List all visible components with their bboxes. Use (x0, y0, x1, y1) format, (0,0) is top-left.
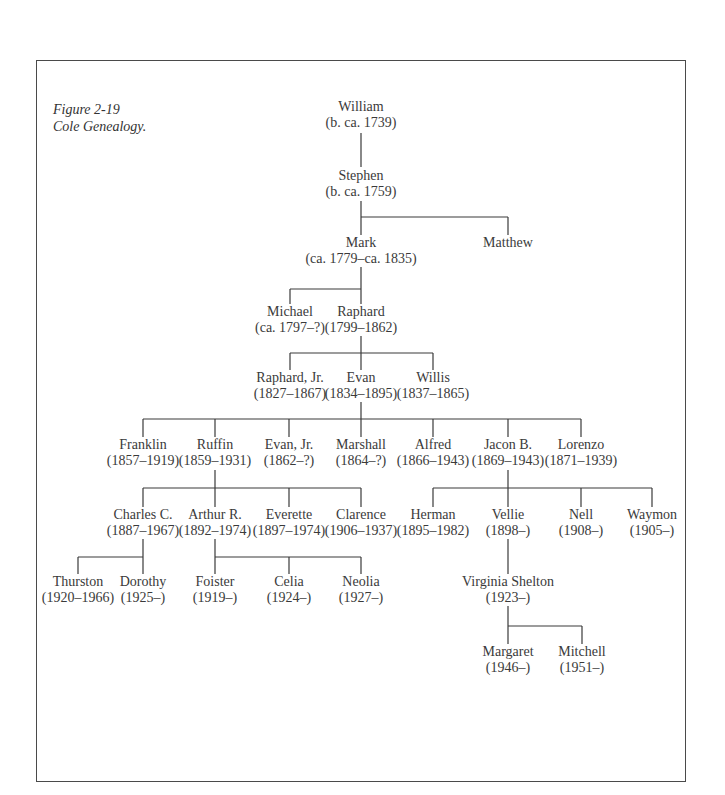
person-dates: (b. ca. 1759) (326, 184, 397, 200)
person-name: Raphard (325, 304, 397, 320)
person-mark: Mark (ca. 1779–ca. 1835) (305, 235, 416, 267)
person-name: Evan (325, 370, 397, 386)
person-margaret: Margaret (1946–) (482, 644, 533, 676)
person-waymon: Waymon (1905–) (627, 507, 677, 539)
person-dates: (1887–1967) (107, 523, 179, 539)
person-name: Stephen (326, 168, 397, 184)
person-raphard: Raphard (1799–1862) (325, 304, 397, 336)
person-dates: (1905–) (627, 523, 677, 539)
person-clarence: Clarence (1906–1937) (325, 507, 397, 539)
person-dates: (ca. 1797–?) (255, 320, 325, 336)
person-marshall: Marshall (1864–?) (336, 437, 387, 469)
person-dates: (1866–1943) (397, 453, 469, 469)
person-willis: Willis (1837–1865) (397, 370, 469, 402)
person-dates: (1946–) (482, 660, 533, 676)
person-franklin: Franklin (1857–1919) (107, 437, 179, 469)
person-name: Arthur R. (179, 507, 251, 523)
person-dates: (1923–) (462, 590, 554, 606)
person-name: Virginia Shelton (462, 574, 554, 590)
person-dates: (1927–) (339, 590, 383, 606)
person-name: Raphard, Jr. (254, 370, 326, 386)
person-name: Matthew (483, 235, 533, 251)
person-ruffin: Ruffin (1859–1931) (179, 437, 251, 469)
person-dates: (1859–1931) (179, 453, 251, 469)
person-name: Vellie (486, 507, 530, 523)
person-dorothy: Dorothy (1925–) (120, 574, 167, 606)
person-dates: (1924–) (267, 590, 311, 606)
person-name: Mark (305, 235, 416, 251)
person-dates: (1869–1943) (472, 453, 544, 469)
person-herman: Herman (1895–1982) (397, 507, 469, 539)
person-alfred: Alfred (1866–1943) (397, 437, 469, 469)
person-dates: (1892–1974) (179, 523, 251, 539)
person-dates: (1906–1937) (325, 523, 397, 539)
person-name: Herman (397, 507, 469, 523)
person-foister: Foister (1919–) (193, 574, 237, 606)
person-vellie: Vellie (1898–) (486, 507, 530, 539)
person-dates: (1897–1974) (253, 523, 325, 539)
person-charles-c: Charles C. (1887–1967) (107, 507, 179, 539)
person-celia: Celia (1924–) (267, 574, 311, 606)
person-thurston: Thurston (1920–1966) (42, 574, 114, 606)
person-dates: (1857–1919) (107, 453, 179, 469)
person-dates: (1925–) (120, 590, 167, 606)
person-name: Nell (559, 507, 603, 523)
person-name: Lorenzo (545, 437, 617, 453)
person-name: Michael (255, 304, 325, 320)
person-name: Everette (253, 507, 325, 523)
person-arthur-r: Arthur R. (1892–1974) (179, 507, 251, 539)
person-dates: (1799–1862) (325, 320, 397, 336)
person-dates: (1908–) (559, 523, 603, 539)
person-name: Charles C. (107, 507, 179, 523)
person-lorenzo: Lorenzo (1871–1939) (545, 437, 617, 469)
person-mitchell: Mitchell (1951–) (558, 644, 605, 676)
person-name: Marshall (336, 437, 387, 453)
person-name: Mitchell (558, 644, 605, 660)
person-dates: (1951–) (558, 660, 605, 676)
person-dates: (1837–1865) (397, 386, 469, 402)
person-dates: (1864–?) (336, 453, 387, 469)
person-name: Neolia (339, 574, 383, 590)
person-jacon-b: Jacon B. (1869–1943) (472, 437, 544, 469)
person-stephen: Stephen (b. ca. 1759) (326, 168, 397, 200)
person-raphard-jr: Raphard, Jr. (1827–1867) (254, 370, 326, 402)
person-evan: Evan (1834–1895) (325, 370, 397, 402)
person-dates: (1827–1867) (254, 386, 326, 402)
person-dates: (1920–1966) (42, 590, 114, 606)
person-dates: (b. ca. 1739) (326, 115, 397, 131)
person-name: Foister (193, 574, 237, 590)
person-name: Celia (267, 574, 311, 590)
person-william: William (b. ca. 1739) (326, 99, 397, 131)
person-dates: (1898–) (486, 523, 530, 539)
person-name: Jacon B. (472, 437, 544, 453)
person-evan-jr: Evan, Jr. (1862–?) (264, 437, 315, 469)
person-everette: Everette (1897–1974) (253, 507, 325, 539)
person-name: Clarence (325, 507, 397, 523)
person-neolia: Neolia (1927–) (339, 574, 383, 606)
person-name: Evan, Jr. (264, 437, 315, 453)
person-dates: (1871–1939) (545, 453, 617, 469)
person-dates: (1919–) (193, 590, 237, 606)
person-nell: Nell (1908–) (559, 507, 603, 539)
person-name: Dorothy (120, 574, 167, 590)
person-name: Franklin (107, 437, 179, 453)
person-matthew: Matthew (483, 235, 533, 251)
person-name: Ruffin (179, 437, 251, 453)
person-dates: (ca. 1779–ca. 1835) (305, 251, 416, 267)
person-name: Waymon (627, 507, 677, 523)
person-dates: (1895–1982) (397, 523, 469, 539)
person-name: Alfred (397, 437, 469, 453)
person-name: Thurston (42, 574, 114, 590)
person-dates: (1834–1895) (325, 386, 397, 402)
person-name: Margaret (482, 644, 533, 660)
person-name: William (326, 99, 397, 115)
person-dates: (1862–?) (264, 453, 315, 469)
person-virginia-shelton: Virginia Shelton (1923–) (462, 574, 554, 606)
person-michael: Michael (ca. 1797–?) (255, 304, 325, 336)
person-name: Willis (397, 370, 469, 386)
